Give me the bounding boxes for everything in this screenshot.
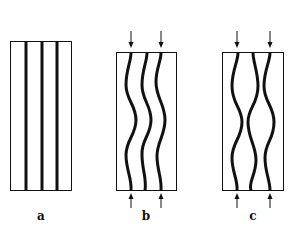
panel-b-load-arrow-bottom-left	[129, 193, 134, 208]
panel-c-load-arrow-top-left	[235, 31, 240, 48]
panel-b-matrix-box	[117, 53, 177, 191]
panel-c-load-arrow-top-right	[268, 31, 273, 48]
panel-c-label: c	[249, 209, 256, 223]
panel-c-fiber-1	[232, 53, 242, 191]
panel-b-load-arrow-top-right	[159, 31, 164, 48]
panel-c-load-arrow-bottom-left	[235, 193, 240, 208]
panel-b-label: b	[142, 209, 150, 223]
fiber-buckling-diagram	[0, 0, 301, 228]
panel-b-load-arrow-bottom-right	[159, 193, 164, 208]
panel-c	[223, 31, 284, 208]
panel-b-fiber-2	[142, 53, 151, 191]
panel-c-fiber-3	[264, 53, 274, 191]
panel-c-fiber-2	[248, 53, 258, 191]
panel-b-fiber-1	[126, 53, 136, 191]
panel-c-load-arrow-bottom-right	[268, 193, 273, 208]
panel-a-label: a	[37, 209, 45, 223]
panel-a	[11, 42, 72, 191]
panel-b-load-arrow-top-left	[129, 31, 134, 48]
panel-b-fiber-3	[156, 53, 165, 191]
panel-b	[117, 31, 177, 208]
